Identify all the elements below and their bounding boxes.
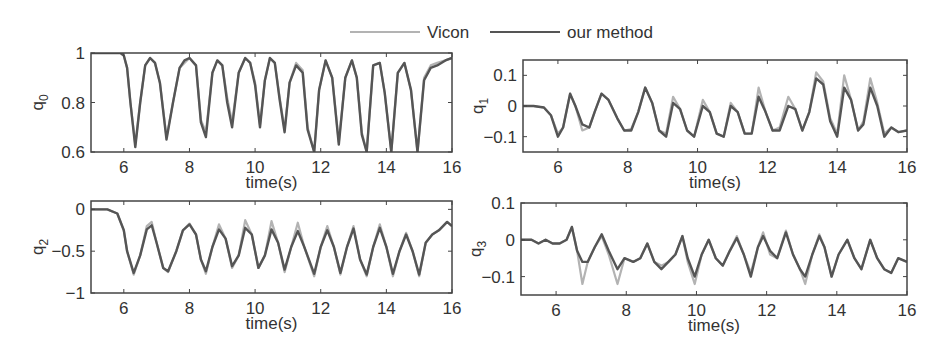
x-tick-label: 14 [377,299,396,318]
legend-vicon-label: Vicon [427,23,469,42]
x-tick-label: 8 [623,158,632,177]
x-tick-label: 12 [311,158,330,177]
x-tick-label: 6 [553,158,562,177]
x-tick-label: 8 [622,301,631,320]
x-tick-label: 12 [311,299,330,318]
x-tick-label: 8 [185,299,194,318]
y-axis-label: q0 [28,94,51,110]
x-tick-label: 12 [758,158,777,177]
x-axis-label: time(s) [246,173,298,192]
legend: Vicon our method [350,23,653,42]
y-tick-label: 0 [508,97,517,116]
x-tick-label: 14 [828,158,847,177]
series-our-method [91,53,452,152]
y-tick-label: 1 [76,44,85,63]
panel-q1: 6810121416−0.100.1time(s)q1 [468,60,916,192]
y-tick-label: −0.1 [483,128,517,147]
y-tick-label: −1 [66,284,85,303]
y-tick-label: 0 [506,231,515,250]
y-tick-label: 0 [76,200,85,219]
y-tick-label: 0.1 [491,194,515,213]
series-vicon [91,209,452,276]
axes-frame [523,60,907,152]
figure: Vicon our method 68101214160.60.81time(s… [0,0,946,357]
y-tick-label: −0.1 [481,268,515,287]
y-tick-label: −0.5 [51,242,85,261]
legend-our-method-label: our method [567,23,653,42]
x-tick-label: 16 [898,158,917,177]
x-tick-label: 16 [898,301,917,320]
x-axis-label: time(s) [688,316,740,335]
panel-q2: 6810121416−1−0.50time(s)q2 [28,200,461,333]
axes-frame [91,201,452,293]
x-tick-label: 12 [757,301,776,320]
x-axis-label: time(s) [689,173,741,192]
x-tick-label: 6 [119,299,128,318]
x-tick-label: 14 [377,158,396,177]
series-our-method [91,209,452,274]
y-axis-label: q3 [466,241,489,257]
y-tick-label: 0.1 [493,66,517,85]
axes-frame [521,203,907,295]
x-axis-label: time(s) [246,314,298,333]
y-tick-label: 0.8 [61,94,85,113]
x-tick-label: 6 [551,301,560,320]
x-tick-label: 16 [443,299,462,318]
x-tick-label: 8 [185,158,194,177]
y-axis-label: q2 [28,239,51,255]
x-tick-label: 14 [827,301,846,320]
y-tick-label: 0.6 [61,143,85,162]
panel-q3: 6810121416−0.100.1time(s)q3 [466,194,916,335]
series-our-method [521,227,907,277]
x-tick-label: 6 [119,158,128,177]
y-axis-label: q1 [468,98,491,114]
panel-q0: 68101214160.60.81time(s)q0 [28,44,461,192]
x-tick-label: 16 [443,158,462,177]
